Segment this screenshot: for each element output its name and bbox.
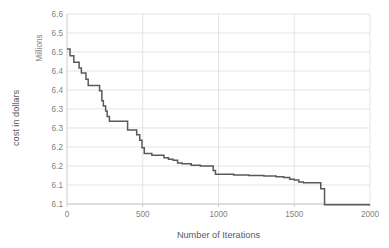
y-tick-label: 6.5 [52,29,64,38]
y-tick-label: 6.3 [52,124,64,133]
y-tick-label: 6.2 [52,162,64,171]
y-tick-label: 6.3 [52,105,64,114]
y-tick-label: 6.1 [52,200,64,209]
x-tick-label: 1500 [285,210,304,219]
y-tick-label: 6.6 [52,10,64,19]
y-tick-label: 6.4 [52,86,64,95]
y-tick-label: 6.5 [52,48,64,57]
x-tick-label: 2000 [361,210,380,219]
y-tick-label: 6.2 [52,143,64,152]
x-tick-label: 0 [65,210,70,219]
y-axis-unit-label: Millions [35,34,44,61]
y-tick-label: 6.4 [52,67,64,76]
x-axis-title: Number of Iterations [177,230,261,240]
cost-convergence-chart: 6.16.16.26.26.36.36.46.46.56.56.6 050010… [0,0,389,248]
y-tick-label: 6.1 [52,181,64,190]
x-tick-label: 500 [136,210,150,219]
y-axis-title: cost in dollars [11,90,21,147]
x-tick-label: 1000 [209,210,228,219]
chart-canvas: 6.16.16.26.26.36.36.46.46.56.56.6 050010… [0,0,389,248]
